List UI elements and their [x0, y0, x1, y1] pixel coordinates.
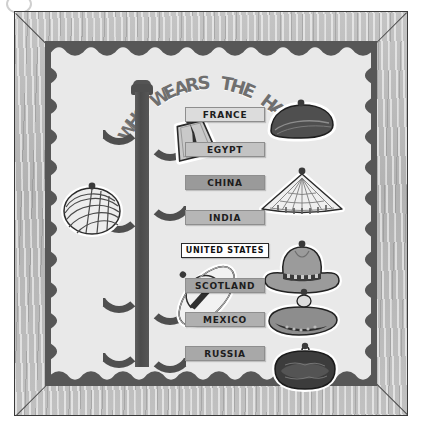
country-label-card[interactable]: MEXICO [185, 312, 265, 327]
country-label-card[interactable]: SCOTLAND [185, 278, 265, 293]
country-label-card[interactable]: FRANCE [185, 107, 265, 122]
country-label-card[interactable]: EGYPT [185, 142, 265, 157]
country-label-card[interactable]: UNITED STATES [181, 243, 269, 258]
country-label-card[interactable]: INDIA [185, 210, 265, 225]
bulletin-board-screenshot: WHOWEARSTHEHAT? [0, 0, 422, 427]
wavy-edge-poster: WHOWEARSTHEHAT? [51, 47, 371, 380]
country-label-list: FRANCEEGYPTCHINAINDIAUNITED STATESSCOTLA… [51, 47, 371, 380]
poster-content: WHOWEARSTHEHAT? [51, 47, 371, 380]
country-label-card[interactable]: RUSSIA [185, 346, 265, 361]
country-label-card[interactable]: CHINA [185, 175, 265, 190]
